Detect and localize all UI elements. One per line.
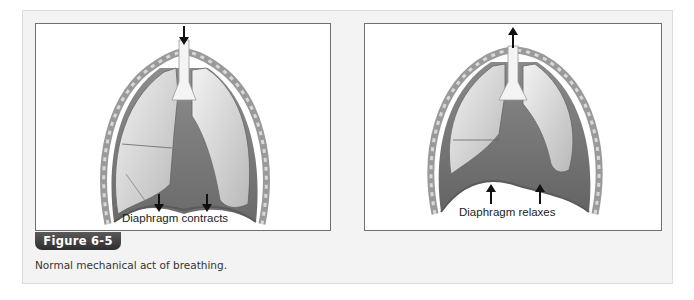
arrow-up-icon xyxy=(486,184,496,204)
figure-number-tab: Figure 6-5 xyxy=(35,232,121,250)
diaphragm-relaxes-label: Diaphragm relaxes xyxy=(459,206,556,218)
arrow-up-icon xyxy=(508,27,518,48)
diagram-inhalation: Diaphragm contracts xyxy=(35,23,331,231)
thorax-exhalation-illustration xyxy=(365,24,663,232)
diaphragm-contracts-label: Diaphragm contracts xyxy=(122,212,228,224)
figure-caption: Normal mechanical act of breathing. xyxy=(35,259,227,271)
thorax-inhalation-illustration xyxy=(36,24,332,232)
figure-panel: Diaphragm contracts xyxy=(22,10,673,284)
diagram-exhalation: Diaphragm relaxes xyxy=(364,23,662,231)
